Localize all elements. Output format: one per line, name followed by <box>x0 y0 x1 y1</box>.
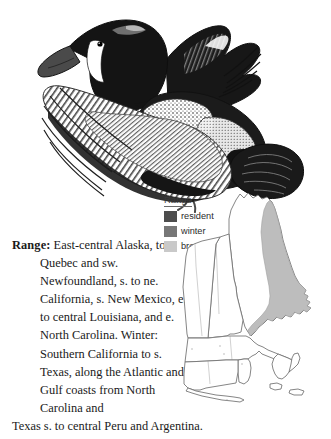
state-rhode-island <box>238 359 251 384</box>
range-label: Range: <box>12 238 50 252</box>
island-marthas-vineyard <box>270 383 282 390</box>
state-connecticut <box>184 360 238 390</box>
map-dot-2 <box>219 345 221 347</box>
range-description: Range: East-central Alaska, to s. Quebec… <box>12 236 194 435</box>
legend-swatch-winter <box>164 226 177 237</box>
range-description-text: East-central Alaska, to s. Quebec and sw… <box>40 238 187 415</box>
range-description-last-line: Texas s. to central Peru and Argentina. <box>12 417 194 435</box>
new-england-range-map <box>182 186 331 421</box>
map-dot-3 <box>223 353 225 355</box>
map-dot-1 <box>191 348 193 350</box>
island-long-island <box>186 388 244 402</box>
island-nantucket <box>289 389 304 395</box>
range-description-body: Range: East-central Alaska, to s. Quebec… <box>12 236 194 417</box>
field-guide-page: Range: East-central Alaska, to s. Quebec… <box>0 0 331 439</box>
map-dot-5 <box>226 399 228 401</box>
legend-swatch-resident <box>164 211 177 222</box>
legend-swatch-breeding <box>164 241 177 252</box>
map-dot-4 <box>241 363 243 365</box>
